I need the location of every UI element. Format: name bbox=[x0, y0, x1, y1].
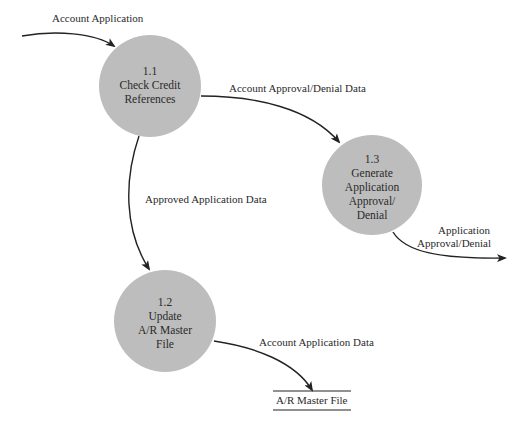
flow-account-application: Account Application bbox=[22, 12, 144, 46]
process-line-1-3-c: Approval/ bbox=[349, 195, 396, 208]
process-line-1-1-a: Check Credit bbox=[120, 79, 182, 91]
flow-label-application-approval-denial-line1: Application bbox=[438, 224, 490, 236]
data-store-ar-master-file: A/R Master File bbox=[273, 391, 351, 410]
flow-label-approved-application-data: Approved Application Data bbox=[145, 193, 267, 205]
data-store-label: A/R Master File bbox=[276, 394, 348, 406]
flow-arrow-account-approval-denial-data bbox=[201, 96, 339, 142]
flow-arrow-account-application-data bbox=[214, 341, 312, 390]
process-1-3: 1.3 Generate Application Approval/ Denia… bbox=[322, 135, 422, 235]
process-number-1-3: 1.3 bbox=[365, 153, 380, 165]
flow-label-application-approval-denial-line2: Approval/Denial bbox=[417, 237, 491, 249]
flow-label-account-application-data: Account Application Data bbox=[259, 336, 374, 348]
flow-arrow-account-application bbox=[22, 33, 114, 46]
flow-account-approval-denial-data: Account Approval/Denial Data bbox=[201, 82, 366, 142]
process-line-1-3-d: Denial bbox=[357, 209, 388, 221]
process-number-1-1: 1.1 bbox=[143, 65, 158, 77]
process-line-1-3-a: Generate bbox=[351, 167, 393, 179]
process-line-1-2-a: Update bbox=[148, 310, 181, 323]
flow-label-account-approval-denial-data: Account Approval/Denial Data bbox=[229, 82, 366, 94]
flow-approved-application-data: Approved Application Data bbox=[129, 136, 267, 269]
process-1-1: 1.1 Check Credit References bbox=[99, 35, 201, 137]
flow-application-approval-denial: Application Approval/Denial bbox=[393, 224, 505, 258]
process-1-2: 1.2 Update A/R Master File bbox=[114, 270, 216, 372]
dfd-canvas: Account Application 1.1 Check Credit Ref… bbox=[0, 0, 522, 431]
flow-label-account-application: Account Application bbox=[52, 12, 144, 24]
flow-account-application-data: Account Application Data bbox=[214, 336, 374, 390]
process-line-1-2-c: File bbox=[156, 338, 174, 350]
process-line-1-2-b: A/R Master bbox=[138, 324, 192, 336]
process-line-1-1-b: References bbox=[124, 93, 176, 105]
process-line-1-3-b: Application bbox=[345, 181, 400, 194]
process-number-1-2: 1.2 bbox=[158, 296, 173, 308]
